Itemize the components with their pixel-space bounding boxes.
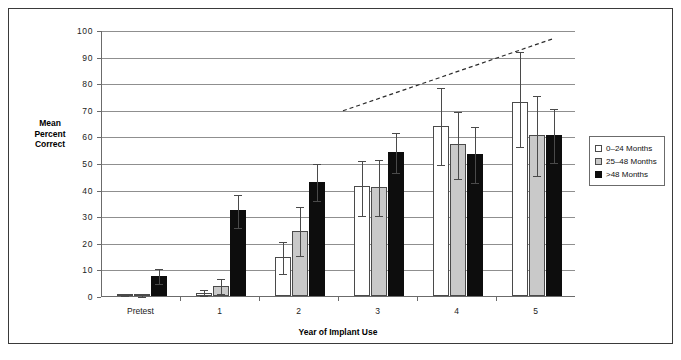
legend-label-over-48-months: >48 Months [606,170,648,179]
y-tick-label: 80 [63,80,93,88]
y-tick-label: 10 [63,266,93,274]
x-axis-title: Year of Implant Use [101,327,575,337]
error-bar-cap-lower [296,256,304,257]
error-bar [221,279,222,294]
error-bar-cap-upper [313,164,321,165]
error-bar-cap-upper [358,161,366,162]
y-tick-label: 30 [63,213,93,221]
error-bar [458,112,459,179]
error-bar [379,160,380,216]
error-bar-cap-upper [138,294,146,295]
error-bar-cap-upper [217,279,225,280]
error-bar-cap-lower [533,176,541,177]
error-bar-cap-upper [375,160,383,161]
legend-item-1[interactable]: 25–48 Months [595,155,660,167]
error-bar-cap-lower [516,147,524,148]
x-tick-label: 4 [454,306,459,316]
gridline [102,270,575,271]
y-tick-label: 90 [63,54,93,62]
error-bar-cap-lower [121,296,129,297]
gridline [102,137,575,138]
y-tick-label: 70 [63,107,93,115]
gridline [102,191,575,192]
error-bar-cap-upper [155,269,163,270]
chart-figure: Mean Percent Correct 0102030405060708090… [0,0,681,360]
gridline [102,164,575,165]
legend-label-25-48-months: 25–48 Months [606,157,657,166]
error-bar-cap-upper [200,290,208,291]
error-bar [362,161,363,216]
error-bar-cap-lower [550,163,558,164]
error-bar [283,242,284,273]
legend-swatch-25-48-months [595,158,602,165]
error-bar-cap-upper [550,109,558,110]
y-tick-label: 60 [63,133,93,141]
gridline [102,111,575,112]
x-tick-label: 1 [217,306,222,316]
legend-label-0-24-months: 0–24 Months [606,144,652,153]
gridline [102,217,575,218]
legend: 0–24 Months 25–48 Months >48 Months [589,136,665,186]
x-tick-label: Pretest [127,306,154,316]
error-bar-cap-upper [454,112,462,113]
y-tick-label: 20 [63,240,93,248]
error-bar-cap-upper [471,127,479,128]
error-bar-cap-lower [217,294,225,295]
y-tick-label: 40 [63,187,93,195]
gridline [102,244,575,245]
x-tick-label: 3 [375,306,380,316]
legend-swatch-0-24-months [595,145,602,152]
error-bar [537,96,538,176]
x-tick-mark [338,297,339,301]
error-bar [238,195,239,228]
error-bar [396,133,397,173]
error-bar [475,127,476,183]
trend-line [343,39,552,111]
error-bar-cap-lower [358,216,366,217]
x-tick-mark [496,297,497,301]
x-tick-label: 2 [296,306,301,316]
error-bar-cap-upper [234,195,242,196]
error-bar-cap-lower [437,165,445,166]
error-bar-cap-lower [234,228,242,229]
error-bar [317,164,318,201]
error-bar-cap-upper [392,133,400,134]
y-tick-label: 50 [63,160,93,168]
error-bar-cap-lower [392,173,400,174]
error-bar-cap-upper [437,88,445,89]
error-bar [159,269,160,284]
x-tick-label: 5 [533,306,538,316]
legend-item-2[interactable]: >48 Months [595,168,660,180]
legend-swatch-over-48-months [595,171,602,178]
error-bar-cap-lower [138,297,146,298]
error-bar-cap-lower [454,179,462,180]
gridline [102,84,575,85]
error-bar-cap-lower [200,296,208,297]
y-tick-label: 100 [63,27,93,35]
y-tick-mark [97,297,101,298]
legend-item-0[interactable]: 0–24 Months [595,142,660,154]
error-bar-cap-upper [516,52,524,53]
gridline [102,31,575,32]
error-bar [554,109,555,162]
y-tick-label: 0 [63,293,93,301]
x-tick-mark [417,297,418,301]
error-bar-cap-lower [471,183,479,184]
error-bar-cap-lower [279,274,287,275]
x-tick-mark [259,297,260,301]
error-bar-cap-upper [279,242,287,243]
x-tick-mark [180,297,181,301]
y-axis-title-line-1: Mean [28,118,72,129]
error-bar [520,52,521,146]
error-bar-cap-lower [375,216,383,217]
error-bar [300,207,301,256]
error-bar-cap-upper [296,207,304,208]
error-bar-cap-lower [155,284,163,285]
error-bar-cap-lower [313,201,321,202]
error-bar-cap-upper [533,96,541,97]
error-bar [441,88,442,165]
gridline [102,58,575,59]
plot-area [101,31,575,297]
